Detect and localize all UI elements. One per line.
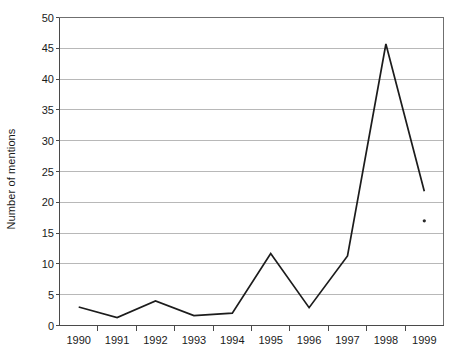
x-tick-label: 1995	[252, 335, 290, 346]
data-series-line	[79, 44, 425, 318]
gridlines	[56, 18, 444, 326]
x-tick-label: 1999	[405, 335, 443, 346]
x-tick-label: 1997	[328, 335, 366, 346]
plot-area	[0, 0, 463, 358]
x-tick-label: 1992	[136, 335, 174, 346]
line-chart-figure: Number of mentions 05101520253035404550 …	[0, 0, 463, 358]
x-tick-label: 1993	[175, 335, 213, 346]
x-axis-tickmarks	[98, 326, 405, 331]
x-tick-label: 1991	[98, 335, 136, 346]
stray-data-mark	[423, 219, 426, 222]
x-tick-label: 1996	[290, 335, 328, 346]
x-tick-label: 1990	[60, 335, 98, 346]
x-tick-label: 1994	[213, 335, 251, 346]
x-tick-label: 1998	[367, 335, 405, 346]
